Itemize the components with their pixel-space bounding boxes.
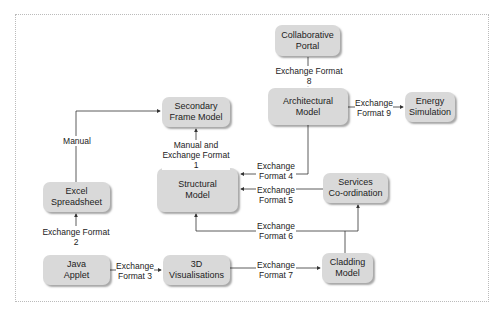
edge-label-ef2: Exchange Format 2 <box>40 227 112 247</box>
node-excel-spreadsheet: Excel Spreadsheet <box>43 182 110 212</box>
edge-label-ef8: Exchange Format 8 <box>274 66 344 86</box>
edge-label-manual-ef1: Manual and Exchange Format 1 <box>162 140 230 170</box>
node-structural-model: Structural Model <box>157 168 238 212</box>
node-services-coordination: Services Co-ordination <box>323 173 388 203</box>
node-3d-visualisations: 3D Visualisations <box>163 255 230 285</box>
edge-label-ef3: Exchange Format 3 <box>116 261 154 281</box>
node-architectural-model: Architectural Model <box>268 88 348 125</box>
node-energy-simulation: Energy Simulation <box>405 92 455 122</box>
edge-label-ef4: Exchange Format 4 <box>256 161 296 181</box>
node-cladding-model: Cladding Model <box>322 253 373 283</box>
node-java-applet: Java Applet <box>43 255 110 285</box>
edge-label-ef7: Exchange Format 7 <box>256 260 296 280</box>
edge-label-ef9: Exchange Format 9 <box>355 98 393 118</box>
node-collaborative-portal: Collaborative Portal <box>275 25 340 56</box>
edge-label-ef5: Exchange Format 5 <box>256 185 296 205</box>
edge-label-ef6: Exchange Format 6 <box>256 221 296 241</box>
edge-label-manual: Manual <box>60 136 94 146</box>
node-secondary-frame-model: Secondary Frame Model <box>162 97 230 127</box>
